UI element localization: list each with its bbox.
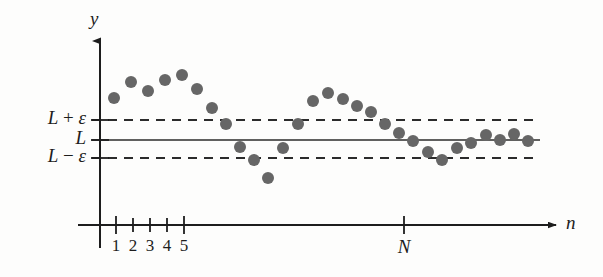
data-point (234, 141, 246, 153)
data-point (480, 129, 492, 141)
level-label-lower: L − ε (48, 145, 86, 167)
data-point (248, 154, 260, 166)
data-point (277, 142, 289, 154)
data-point (220, 118, 232, 130)
data-point (522, 135, 534, 147)
x-tick-label-5: 5 (170, 236, 198, 256)
sequence-convergence-figure: y n L + εLL − ε 12345N (0, 0, 603, 277)
x-axis-label: n (566, 212, 576, 234)
data-point (142, 85, 154, 97)
data-point (159, 74, 171, 86)
plot-canvas (0, 0, 603, 277)
data-point (508, 128, 520, 140)
level-label-prefix: L (48, 145, 59, 166)
data-point (451, 142, 463, 154)
data-point (108, 92, 120, 104)
data-points-group (108, 69, 534, 184)
data-point (365, 106, 377, 118)
x-tick-label-N: N (390, 236, 418, 258)
data-point (206, 102, 218, 114)
data-point (322, 87, 334, 99)
level-label-operator: + (58, 107, 78, 128)
data-point (436, 154, 448, 166)
level-label-upper: L + ε (48, 107, 86, 129)
axis-group (78, 41, 556, 248)
data-point (307, 95, 319, 107)
level-label-prefix: L (48, 107, 59, 128)
data-point (393, 127, 405, 139)
y-axis-label: y (90, 8, 98, 30)
level-label-operator: − (58, 145, 78, 166)
data-point (191, 83, 203, 95)
level-label-epsilon: ε (79, 145, 87, 166)
tick-marks-group (91, 120, 404, 234)
data-point (407, 135, 419, 147)
data-point (465, 137, 477, 149)
data-point (351, 100, 363, 112)
data-point (494, 134, 506, 146)
data-point (125, 76, 137, 88)
data-point (262, 172, 274, 184)
data-point (176, 69, 188, 81)
data-point (292, 118, 304, 130)
data-point (337, 93, 349, 105)
data-point (422, 146, 434, 158)
data-point (379, 118, 391, 130)
level-label-epsilon: ε (79, 107, 87, 128)
